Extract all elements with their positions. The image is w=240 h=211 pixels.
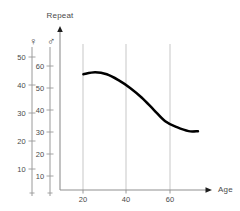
- x-tick-label-40: 40: [122, 196, 131, 204]
- y-tick-label-male-20: 20: [36, 151, 45, 159]
- y-tick-label-female-40: 40: [17, 82, 26, 90]
- y-tick-label-male-40: 40: [36, 107, 45, 115]
- x-tick-label-20: 20: [79, 196, 88, 204]
- y-tick-label-female-30: 30: [17, 110, 26, 118]
- x-tick-label-60: 60: [166, 196, 175, 204]
- y-tick-label-male-10: 10: [36, 173, 45, 181]
- venus-female-symbol-icon: ♀: [29, 36, 37, 47]
- y-tick-label-female-50: 50: [17, 54, 26, 62]
- mars-male-symbol-icon: ♂: [47, 36, 55, 47]
- x-axis-title: Age: [218, 186, 233, 194]
- y-tick-label-male-50: 50: [36, 85, 45, 93]
- y-tick-label-female-10: 10: [17, 166, 26, 174]
- y-tick-label-male-60: 60: [36, 63, 45, 71]
- y-axis-title: Repeat: [47, 12, 74, 20]
- y-tick-label-male-30: 30: [36, 129, 45, 137]
- y-tick-label-female-20: 20: [17, 138, 26, 146]
